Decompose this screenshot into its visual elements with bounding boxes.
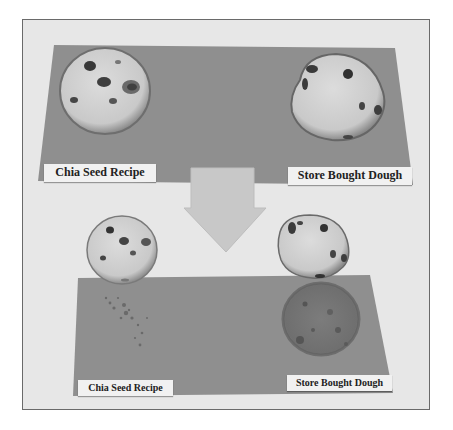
top-left-label: Chia Seed Recipe bbox=[44, 164, 156, 182]
top-right-label: Store Bought Dough bbox=[288, 167, 412, 185]
top-left-cookie bbox=[60, 48, 150, 134]
photo-scene bbox=[0, 0, 453, 430]
bottom-left-label: Chia Seed Recipe bbox=[78, 380, 173, 396]
grease-stain bbox=[283, 283, 359, 355]
bottom-right-cookie bbox=[278, 215, 349, 278]
bottom-right-label: Store Bought Dough bbox=[287, 375, 392, 391]
bottom-left-cookie bbox=[87, 216, 157, 284]
